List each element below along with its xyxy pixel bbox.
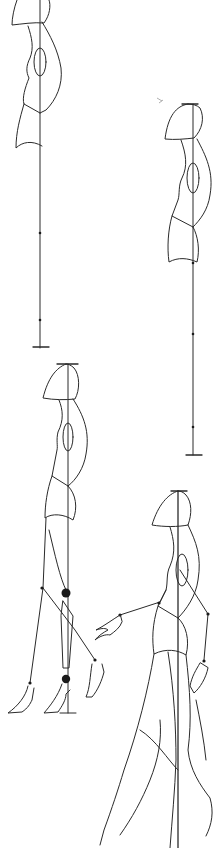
figure-1 — [12, 0, 61, 348]
figure-3 — [8, 364, 104, 713]
figure-4 — [95, 491, 212, 848]
figure-2 — [157, 98, 211, 455]
croquis-drawing — [0, 0, 214, 848]
